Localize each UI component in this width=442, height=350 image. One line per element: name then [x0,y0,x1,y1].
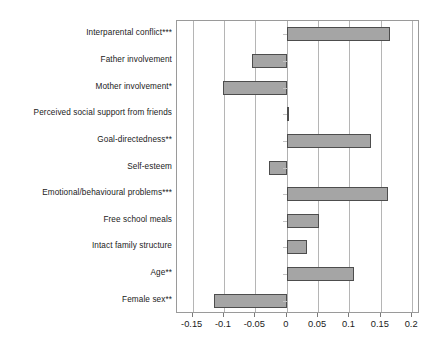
category-tick [283,301,287,302]
x-tick-mark [254,313,255,317]
x-tick-label: 0.15 [371,318,389,330]
category-tick [283,274,287,275]
x-tick-mark [411,313,412,317]
x-tick-mark [348,313,349,317]
category-tick [283,61,287,62]
category-label: Perceived social support from friends [0,108,172,118]
category-tick [283,221,287,222]
bar [287,107,290,121]
x-tick-mark [380,313,381,317]
x-tick-mark [317,313,318,317]
x-axis-tick-labels: -0.15-0.1-0.0500.050.10.150.2 [176,318,419,334]
bar [287,240,307,254]
category-tick [283,168,287,169]
bar [287,134,371,148]
category-axis-labels: Interparental conflict***Father involvem… [0,20,172,313]
x-tick-label: 0.2 [405,318,418,330]
bar-chart: Interparental conflict***Father involvem… [0,0,442,350]
category-tick [283,247,287,248]
category-tick [283,34,287,35]
category-label: Mother involvement* [0,82,172,92]
category-label: Free school meals [0,215,172,225]
gridline-1 [224,21,225,312]
x-tick-mark [223,313,224,317]
bar [287,214,319,228]
x-tick-mark [286,313,287,317]
category-tick [283,88,287,89]
category-tick [283,194,287,195]
category-label: Interparental conflict*** [0,28,172,38]
x-tick-label: 0.1 [342,318,355,330]
category-label: Father involvement [0,55,172,65]
category-label: Emotional/behavioural problems*** [0,188,172,198]
plot-area [176,20,419,313]
category-label: Intact family structure [0,241,172,251]
x-tick-label: -0.1 [215,318,231,330]
bar [214,294,287,308]
category-label: Age** [0,268,172,278]
x-tick-label: 0 [283,318,288,330]
category-label: Self-esteem [0,162,172,172]
x-tick-label: -0.15 [181,318,202,330]
bar [287,187,389,201]
x-tick-label: -0.05 [244,318,265,330]
bar [287,267,354,281]
x-tick-label: 0.05 [308,318,326,330]
category-tick [283,141,287,142]
category-label: Goal-directedness** [0,135,172,145]
category-label: Female sex** [0,295,172,305]
gridline-6 [381,21,382,312]
bar [287,27,390,41]
category-tick [283,114,287,115]
bar [252,54,287,68]
gridline-0 [193,21,194,312]
x-tick-mark [192,313,193,317]
bar [223,81,287,95]
gridline-7 [412,21,413,312]
x-axis-tick-marks [176,313,419,317]
